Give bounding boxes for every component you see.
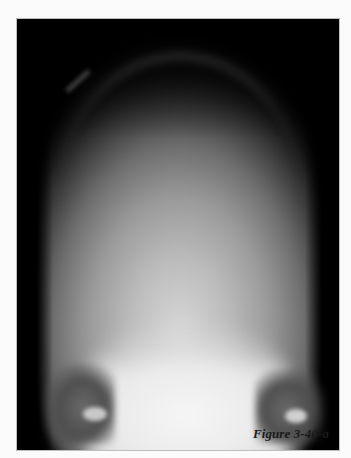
- right-mastoid-highlight: [285, 409, 307, 423]
- left-mastoid-region: [45, 364, 115, 444]
- right-edge-shadow: [305, 19, 339, 450]
- top-shadow: [17, 19, 339, 139]
- left-edge-shadow: [17, 19, 53, 450]
- xray-figure: Figure 3-40-a: [17, 19, 339, 450]
- scalp-streak: [66, 69, 91, 92]
- left-mastoid-highlight: [83, 407, 107, 421]
- skull-rim: [55, 53, 305, 209]
- skull-dome-image: [33, 41, 325, 450]
- figure-caption: Figure 3-40-a: [253, 426, 329, 442]
- page: Figure 3-40-a: [0, 0, 351, 458]
